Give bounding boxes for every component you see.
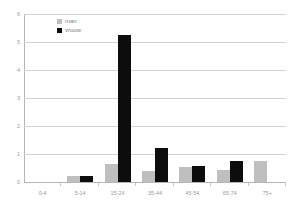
legend-item-vrouw: vrouw [57,27,81,33]
bar-vrouw-65-74 [230,161,243,182]
x-tick-mark-45-54 [174,183,211,187]
x-tick-mark-65-74 [211,183,248,187]
x-tick-mark-75+ [249,183,286,187]
bar-man-35-44 [142,171,155,182]
x-axis-tick-marks [24,183,286,187]
y-tick-label-6: 6 [4,11,20,17]
bar-group-65-74 [211,14,248,182]
plot-area [24,14,286,182]
x-tick-label-5-14: 5-14 [61,190,98,197]
x-tick-label-65-74: 65-74 [211,190,248,197]
bar-group-5-14 [61,14,98,182]
bar-group-15-24 [99,14,136,182]
x-tick-label-45-54: 45-54 [174,190,211,197]
y-tick-label-1: 1 [4,151,20,157]
chart-legend: man vrouw [57,18,81,33]
legend-item-man: man [57,18,81,24]
bar-man-15-24 [105,164,118,182]
bar-group-0-4 [24,14,61,182]
y-tick-label-5: 5 [4,39,20,45]
y-tick-label-4: 4 [4,67,20,73]
bar-group-75+ [249,14,286,182]
legend-label-vrouw: vrouw [65,27,81,33]
legend-swatch-man-icon [57,19,62,24]
x-axis-labels: 0-45-1415-2435-4445-5465-7475+ [24,190,286,197]
x-tick-mark-15-24 [99,183,136,187]
x-tick-label-35-44: 35-44 [136,190,173,197]
x-tick-mark-35-44 [136,183,173,187]
bar-vrouw-35-44 [155,148,168,182]
bar-group-35-44 [136,14,173,182]
x-tick-label-15-24: 15-24 [99,190,136,197]
x-tick-label-0-4: 0-4 [24,190,61,197]
x-tick-mark-5-14 [61,183,98,187]
legend-swatch-vrouw-icon [57,28,62,33]
bar-man-45-54 [179,167,192,182]
bar-vrouw-5-14 [80,176,93,182]
bar-group-45-54 [174,14,211,182]
y-tick-label-3: 3 [4,95,20,101]
bar-man-5-14 [67,176,80,182]
x-tick-label-75+: 75+ [249,190,286,197]
y-tick-label-0: 0 [4,179,20,185]
legend-label-man: man [65,18,77,24]
y-tick-label-2: 2 [4,123,20,129]
x-tick-mark-0-4 [24,183,61,187]
bar-vrouw-15-24 [118,35,131,182]
bar-chart: 0123456 0-45-1415-2435-4445-5465-7475+ m… [0,0,299,217]
bar-man-65-74 [217,170,230,182]
bar-groups [24,14,286,182]
bar-vrouw-45-54 [192,166,205,182]
bar-man-75+ [254,161,267,182]
